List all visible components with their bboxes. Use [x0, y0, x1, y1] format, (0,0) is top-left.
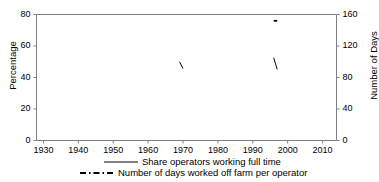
y-tick-label-right: 0 [343, 135, 369, 145]
y-tick-label-right: 40 [343, 103, 369, 113]
y-axis-right-title: Number of Days [368, 23, 379, 109]
x-tick-label: 1980 [201, 145, 235, 155]
x-tick-label: 1950 [96, 145, 130, 155]
y-tick-label-left: 20 [9, 103, 31, 113]
legend-solid-line-icon [104, 158, 138, 166]
x-tick-label: 2010 [306, 145, 340, 155]
series-line-0 [274, 58, 277, 69]
legend-dashed-line-icon [80, 169, 114, 177]
x-tick-label: 1960 [131, 145, 165, 155]
x-tick-label: 1940 [61, 145, 95, 155]
y-tick-label-left: 40 [9, 72, 31, 82]
y-tick-label-right: 120 [343, 40, 369, 50]
y-tick-label-right: 160 [343, 9, 369, 19]
legend-label: Share operators working full time [142, 157, 281, 167]
x-tick-label: 1990 [236, 145, 270, 155]
x-tick-label: 2000 [271, 145, 305, 155]
y-tick-label-right: 80 [343, 72, 369, 82]
y-tick-label-left: 0 [9, 135, 31, 145]
legend-item: Number of days worked off farm per opera… [80, 168, 307, 178]
y-tick-label-left: 80 [9, 9, 31, 19]
y-tick-label-left: 60 [9, 40, 31, 50]
legend-label: Number of days worked off farm per opera… [118, 168, 307, 178]
x-tick-label: 1930 [26, 145, 60, 155]
x-tick-label: 1970 [166, 145, 200, 155]
legend-item: Share operators working full time [104, 157, 281, 167]
series-line-0 [180, 62, 183, 69]
